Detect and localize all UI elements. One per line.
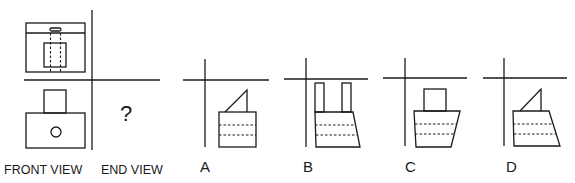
question-panel: ? FRONT VIEW END VIEW	[4, 10, 163, 177]
front-view	[26, 90, 85, 148]
option-d[interactable]: D	[483, 58, 567, 175]
unknown-end-view-mark: ?	[120, 101, 132, 126]
option-b[interactable]: B	[284, 58, 368, 175]
hole-icon	[51, 127, 61, 137]
option-a-label: A	[200, 158, 210, 175]
slot-icon	[50, 28, 61, 31]
front-view-label: FRONT VIEW	[4, 163, 82, 177]
orthographic-projection-question: ? FRONT VIEW END VIEW A B	[0, 0, 575, 183]
option-d-label: D	[506, 158, 517, 175]
option-a[interactable]: A	[183, 59, 269, 175]
top-view	[26, 23, 85, 72]
end-view-label: END VIEW	[101, 163, 163, 177]
option-b-label: B	[303, 158, 313, 175]
option-c[interactable]: C	[383, 58, 467, 175]
option-c-label: C	[405, 158, 416, 175]
